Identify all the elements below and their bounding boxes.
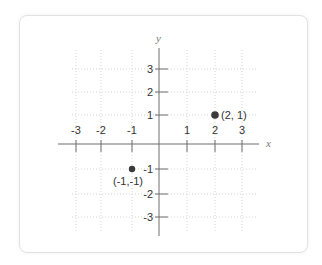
y-tick-label: -2 (143, 188, 153, 200)
x-tick-label: 2 (212, 124, 218, 136)
x-axis-label: x (265, 137, 271, 149)
grid (72, 50, 256, 232)
point-label: (-1,-1) (113, 175, 143, 187)
y-axis-label: y (155, 32, 161, 44)
y-tick-label: -1 (143, 163, 153, 175)
x-tick-label: -2 (96, 124, 106, 136)
coordinate-plane: x y -3 -2 -1 1 2 3 3 2 1 -1 -2 -3 (2, 1)… (0, 0, 322, 265)
x-tick-label: -3 (71, 124, 81, 136)
x-tick-label: -1 (127, 124, 137, 136)
axes (58, 48, 259, 236)
point-label: (2, 1) (221, 109, 247, 121)
y-tick-label: 3 (147, 63, 153, 75)
x-tick-label: 1 (184, 124, 190, 136)
y-tick-label: 1 (147, 109, 153, 121)
y-tick-label: 2 (147, 86, 153, 98)
y-tick-label: -3 (143, 211, 153, 223)
x-tick-label: 3 (239, 124, 245, 136)
point-marker (129, 166, 135, 172)
point-marker (211, 111, 219, 119)
